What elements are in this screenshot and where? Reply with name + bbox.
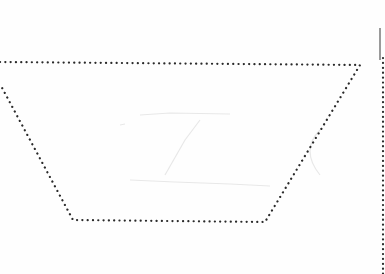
faint-marks — [120, 113, 320, 186]
drawing-canvas — [0, 0, 385, 274]
trapezoid-outline — [0, 62, 360, 222]
trapezoid-diagram — [0, 0, 385, 274]
